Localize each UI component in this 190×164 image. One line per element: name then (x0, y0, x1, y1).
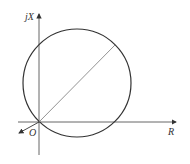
diameter-line (39, 45, 115, 122)
impedance-circle-diagram: jX R O (0, 0, 190, 164)
origin-label: O (29, 127, 36, 138)
r-axis-label: R (167, 126, 174, 137)
jx-axis-label: jX (23, 11, 35, 22)
